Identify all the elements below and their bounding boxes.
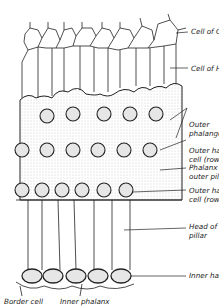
label-outer-hair-cell-row1: Outer hair cell (row 1) — [189, 186, 219, 204]
label-line: phalanges — [189, 129, 219, 138]
inner-hair-cells — [22, 269, 131, 283]
label-inner-hair-cell: Inner hair cell — [189, 271, 219, 280]
label-line: Outer hair — [189, 146, 219, 155]
label-line: cell (row 1) — [189, 195, 219, 204]
label-line: pillar — [189, 231, 219, 240]
label-outer-phalanges: Outer phalanges — [189, 120, 219, 138]
label-line: Outer — [189, 120, 219, 129]
label-head-of-inner-pillar: Head of inner pillar — [189, 222, 219, 240]
phalanges-region — [20, 83, 182, 200]
label-line: Phalanx of — [189, 163, 219, 172]
label-line: outer pillar — [189, 172, 219, 181]
label-outer-hair-cell-row2: Outer hair cell (row 2) — [189, 146, 219, 164]
label-line: Head of inner — [189, 222, 219, 231]
inner-pillars — [28, 200, 130, 270]
label-cell-of-hensen: Cell of Hensen — [191, 64, 219, 73]
claudius-cells — [24, 14, 186, 50]
label-cell-of-claudius: Cell of Claudius — [191, 27, 219, 36]
organ-of-corti-diagram — [0, 0, 219, 307]
label-inner-phalanx: Inner phalanx — [60, 297, 110, 306]
label-line: Outer hair — [189, 186, 219, 195]
label-border-cell: Border cell — [4, 297, 43, 306]
label-phalanx-of-outer-pillar: Phalanx of outer pillar — [189, 163, 219, 181]
